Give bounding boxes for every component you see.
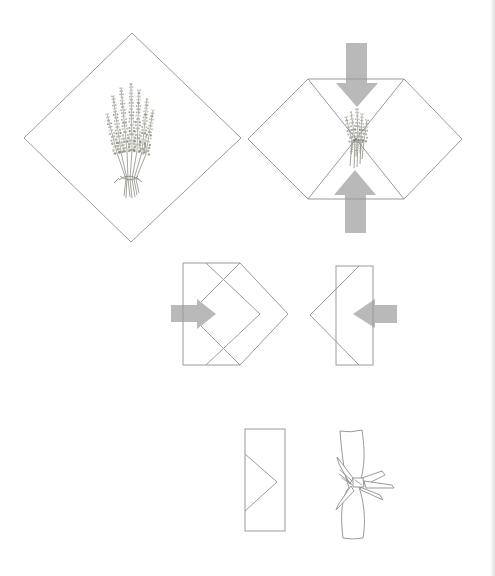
step-2-fold-corners [248,43,462,233]
arrow-up-stem [345,195,366,233]
arrow-up-icon [334,170,376,195]
illustration-page [0,0,495,576]
step-3-fold-left [171,263,288,365]
flat-packet-outline [245,429,285,531]
cloth-diamond-outline [24,33,241,242]
arrow-left-stem [375,305,397,323]
diagram-canvas [0,0,495,576]
lavender-bundle-sketch [105,83,155,198]
arrow-down-icon [336,83,378,107]
arrow-right-stem [171,305,197,322]
step-4-fold-right [310,266,397,365]
step-6-tied-roll [336,430,394,539]
arrow-right-icon [197,299,216,329]
bow-tail-right [364,481,394,488]
arrow-left-icon [353,299,375,328]
arrow-down-stem [346,43,367,84]
flat-packet-crease [245,454,277,511]
bow-tail-lower-right [360,487,383,500]
protruding-point-crease [310,266,359,365]
step-1-open-cloth [24,33,241,242]
step-5-flat-packet [245,429,285,531]
